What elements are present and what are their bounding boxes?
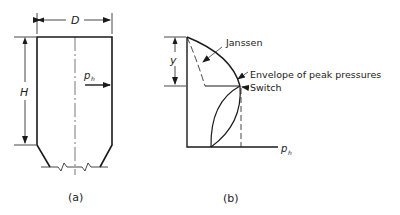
envelope-label: Envelope of peak pressures xyxy=(250,69,381,80)
pressure-subscript: h xyxy=(91,75,95,82)
figure-b-pressure-chart: y p h Janssen Envelope of peak pressures… xyxy=(164,37,381,205)
height-label-h: H xyxy=(20,86,28,99)
pressure-label: p xyxy=(83,70,90,81)
axis-subscript-ph: h xyxy=(288,149,292,156)
envelope-leader xyxy=(238,72,248,79)
switch-label: Switch xyxy=(250,82,281,93)
janssen-label: Janssen xyxy=(225,37,262,48)
caption-b: (b) xyxy=(223,192,239,205)
caption-a: (a) xyxy=(68,191,83,204)
break-line xyxy=(41,163,108,171)
silo-pressure-diagram: D H p h (a) y xyxy=(0,0,400,215)
figure-a-silo: D H p h (a) xyxy=(14,13,112,204)
switch-leader xyxy=(242,87,249,88)
depth-label-y: y xyxy=(169,54,177,67)
axis-label-ph: p xyxy=(280,143,287,154)
silo-outline xyxy=(37,37,112,167)
width-label-d: D xyxy=(71,14,79,27)
